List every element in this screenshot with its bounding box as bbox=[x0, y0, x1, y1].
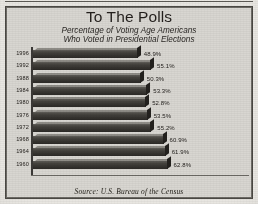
plot-area: 199648.9%199255.1%198850.3%198453.3%1980… bbox=[6, 47, 252, 176]
bar-end-cap bbox=[137, 45, 141, 58]
bar[interactable] bbox=[33, 75, 141, 83]
bar-body bbox=[33, 75, 141, 83]
bar[interactable] bbox=[33, 136, 164, 144]
y-axis-tick-label: 1968 bbox=[6, 134, 29, 146]
bar-row: 196860.9% bbox=[6, 134, 252, 146]
bar-top-face bbox=[35, 122, 155, 124]
bar-body bbox=[33, 136, 164, 144]
bar-end-cap bbox=[150, 58, 154, 71]
chart-subtitle-line2: Who Voted in Presidential Elections bbox=[6, 35, 252, 44]
bar-body bbox=[33, 99, 146, 107]
bar-row: 196062.8% bbox=[6, 159, 252, 171]
bar-top-face bbox=[35, 60, 154, 62]
y-axis-tick-label: 1960 bbox=[6, 159, 29, 171]
bar-body bbox=[33, 161, 168, 169]
bar[interactable] bbox=[33, 62, 151, 70]
bar-end-cap bbox=[146, 82, 150, 95]
bar-top-face bbox=[35, 85, 151, 87]
bar-body bbox=[33, 112, 148, 120]
source-note: Source: U.S. Bureau of the Census bbox=[6, 187, 252, 196]
bar[interactable] bbox=[33, 99, 146, 107]
y-axis-tick-label: 1992 bbox=[6, 60, 29, 72]
bar-value-label: 53.3% bbox=[153, 87, 171, 95]
bar-row: 197653.5% bbox=[6, 110, 252, 122]
y-axis-tick-label: 1988 bbox=[6, 73, 29, 85]
bar-end-cap bbox=[147, 107, 151, 120]
y-axis-tick-label: 1984 bbox=[6, 85, 29, 97]
bar-body bbox=[33, 62, 151, 70]
bar-row: 199255.1% bbox=[6, 60, 252, 72]
y-axis-tick-label: 1976 bbox=[6, 110, 29, 122]
bar-end-cap bbox=[145, 94, 149, 107]
bar-value-label: 60.9% bbox=[170, 136, 188, 144]
bar-value-label: 61.9% bbox=[172, 148, 190, 156]
bar-row: 197255.2% bbox=[6, 122, 252, 134]
chart-title: To The Polls bbox=[6, 8, 252, 25]
bar[interactable] bbox=[33, 148, 166, 156]
y-axis-tick-label: 1980 bbox=[6, 97, 29, 109]
bar-end-cap bbox=[163, 131, 167, 144]
bar-body bbox=[33, 87, 147, 95]
bar-body bbox=[33, 148, 166, 156]
bar-body bbox=[33, 50, 138, 58]
top-rule bbox=[5, 1, 253, 2]
y-axis-tick-label: 1964 bbox=[6, 146, 29, 158]
bar-row: 198052.8% bbox=[6, 97, 252, 109]
bar-value-label: 55.1% bbox=[157, 62, 175, 70]
bar-top-face bbox=[35, 159, 171, 161]
bar[interactable] bbox=[33, 161, 168, 169]
chart-figure: To The Polls Percentage of Voting Age Am… bbox=[0, 0, 258, 204]
bar-top-face bbox=[35, 110, 151, 112]
bar-end-cap bbox=[150, 119, 154, 132]
bar-row: 196461.9% bbox=[6, 146, 252, 158]
bar-value-label: 53.5% bbox=[154, 112, 172, 120]
y-axis-tick-label: 1972 bbox=[6, 122, 29, 134]
bar-end-cap bbox=[165, 144, 169, 157]
y-axis-tick-label: 1996 bbox=[6, 48, 29, 60]
bar-top-face bbox=[35, 48, 141, 50]
bar-top-face bbox=[35, 134, 167, 136]
bar-end-cap bbox=[140, 70, 144, 83]
bar[interactable] bbox=[33, 87, 147, 95]
bar[interactable] bbox=[33, 50, 138, 58]
bar-value-label: 62.8% bbox=[174, 161, 192, 169]
bar-row: 199648.9% bbox=[6, 48, 252, 60]
bar-value-label: 52.8% bbox=[152, 99, 170, 107]
bar-body bbox=[33, 124, 151, 132]
bar-top-face bbox=[35, 73, 144, 75]
bar[interactable] bbox=[33, 112, 148, 120]
bar[interactable] bbox=[33, 124, 151, 132]
bar-row: 198453.3% bbox=[6, 85, 252, 97]
bar-row: 198850.3% bbox=[6, 73, 252, 85]
bar-top-face bbox=[35, 97, 150, 99]
chart-inner: To The Polls Percentage of Voting Age Am… bbox=[6, 7, 252, 198]
chart-subtitle-line1: Percentage of Voting Age Americans bbox=[6, 26, 252, 35]
bar-end-cap bbox=[167, 156, 171, 169]
x-axis-line bbox=[31, 175, 249, 176]
